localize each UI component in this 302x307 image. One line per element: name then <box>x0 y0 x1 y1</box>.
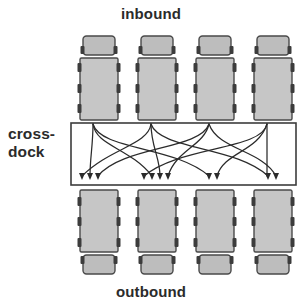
outbound-truck-4 <box>252 190 295 274</box>
inbound-truck-3 <box>194 36 237 120</box>
outbound-truck-1 <box>78 190 121 274</box>
inbound-label: inbound <box>0 5 302 22</box>
inbound-truck-2 <box>136 36 179 120</box>
inbound-truck-1 <box>78 36 121 120</box>
outbound-truck-row <box>78 190 295 274</box>
outbound-truck-2 <box>136 190 179 274</box>
crossdock-diagram: inbound cross- dock outbound <box>0 0 302 307</box>
inbound-truck-4 <box>252 36 295 120</box>
outbound-truck-3 <box>194 190 237 274</box>
outbound-label: outbound <box>0 283 302 300</box>
inbound-truck-row <box>78 36 295 120</box>
crossdock-label: cross- dock <box>8 125 68 161</box>
crossdock-label-line1: cross- <box>8 125 68 143</box>
crossdock-label-line2: dock <box>8 143 68 161</box>
